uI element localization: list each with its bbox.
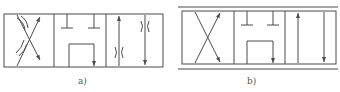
- valve-b: [178, 7, 338, 69]
- caption-a: a): [78, 76, 87, 86]
- valve-a: [4, 14, 163, 67]
- valve-diagrams: [0, 0, 340, 92]
- caption-b: b): [247, 76, 256, 86]
